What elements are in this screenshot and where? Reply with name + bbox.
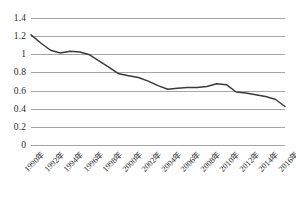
gridlines	[31, 19, 285, 146]
series-line	[31, 35, 285, 107]
y-tick-label: 0.4	[0, 104, 26, 114]
y-tick-label: 0.8	[0, 67, 26, 77]
data-series	[31, 35, 285, 107]
y-tick-label: 0.6	[0, 86, 26, 96]
line-chart: 1.41.210.80.60.40.20 1990年1992年1994年1996…	[0, 0, 296, 197]
y-tick-label: 0.2	[0, 122, 26, 132]
y-tick-label: 1.4	[0, 13, 26, 23]
y-tick-label: 1	[0, 49, 26, 59]
y-tick-label: 1.2	[0, 31, 26, 41]
y-tick-label: 0	[0, 140, 26, 150]
